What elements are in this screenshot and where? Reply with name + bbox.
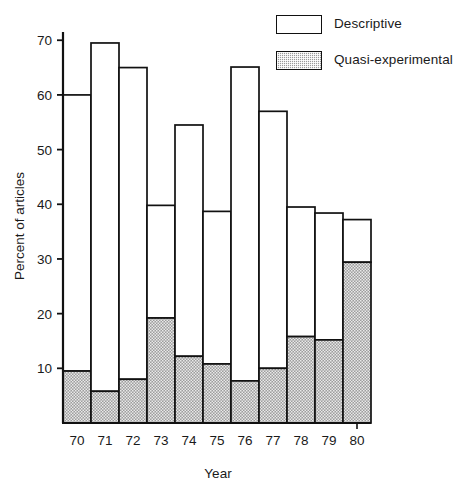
- x-tick-label: 79: [321, 433, 336, 448]
- bar-segment-descriptive: [259, 111, 287, 368]
- bar-segment-descriptive: [175, 125, 203, 356]
- bar-segment-descriptive: [315, 213, 343, 340]
- legend-item-quasi-experimental: Quasi-experimental: [276, 50, 436, 70]
- bar-group: [343, 220, 371, 423]
- x-tick-label: 73: [153, 433, 168, 448]
- bar-segment-descriptive: [287, 207, 315, 337]
- x-tick-label: 80: [349, 433, 364, 448]
- legend-item-descriptive: Descriptive: [276, 14, 436, 34]
- legend-label-descriptive: Descriptive: [334, 17, 402, 31]
- bar-group: [315, 213, 343, 423]
- bar-segment-descriptive: [203, 211, 231, 364]
- bar-segment-quasi-experimental: [91, 391, 119, 423]
- legend-label-quasi-experimental: Quasi-experimental: [334, 53, 453, 67]
- bar-group: [287, 207, 315, 423]
- bar-segment-descriptive: [91, 43, 119, 391]
- bar-segment-quasi-experimental: [231, 381, 259, 423]
- x-axis-title: Year: [204, 466, 232, 481]
- y-tick-label: 40: [37, 197, 52, 212]
- y-tick-label: 30: [37, 252, 52, 267]
- y-tick-label: 50: [37, 143, 52, 158]
- bar-segment-descriptive: [119, 68, 147, 380]
- bar-group: [147, 205, 175, 423]
- bar-segment-quasi-experimental: [343, 262, 371, 423]
- bar-segment-quasi-experimental: [119, 379, 147, 423]
- y-tick-label: 20: [37, 307, 52, 322]
- bar-group: [63, 95, 91, 423]
- bar-segment-quasi-experimental: [63, 371, 91, 423]
- x-tick-label: 74: [181, 433, 197, 448]
- y-tick-labels: 10203040506070: [37, 33, 52, 376]
- bar-segment-quasi-experimental: [287, 337, 315, 423]
- y-tick-label: 70: [37, 33, 52, 48]
- y-tick-label: 10: [37, 361, 52, 376]
- x-tick-label: 76: [237, 433, 252, 448]
- bars-layer: [63, 43, 371, 423]
- bar-segment-descriptive: [343, 220, 371, 263]
- bar-group: [119, 68, 147, 423]
- x-tick-label: 72: [125, 433, 140, 448]
- bar-group: [91, 43, 119, 423]
- bar-group: [231, 67, 259, 423]
- bar-group: [259, 111, 287, 423]
- y-tick-label: 60: [37, 88, 52, 103]
- x-tick-label: 70: [69, 433, 84, 448]
- x-tick-label: 75: [209, 433, 224, 448]
- bar-segment-descriptive: [147, 205, 175, 318]
- open-box-icon: [276, 15, 322, 34]
- bar-group: [175, 125, 203, 423]
- x-tick-label: 71: [97, 433, 112, 448]
- bar-segment-descriptive: [63, 95, 91, 371]
- bar-segment-quasi-experimental: [203, 364, 231, 423]
- bar-segment-quasi-experimental: [315, 340, 343, 423]
- chart-legend: Descriptive Quasi-experimental: [276, 14, 436, 86]
- bar-group: [203, 211, 231, 423]
- stippled-box-icon: [276, 51, 322, 70]
- x-tick-labels: 7071727374757677787980: [69, 433, 364, 448]
- bar-segment-quasi-experimental: [259, 368, 287, 423]
- x-tick-label: 77: [265, 433, 280, 448]
- y-axis-title: Percent of articles: [12, 172, 27, 280]
- bar-segment-descriptive: [231, 67, 259, 381]
- bar-segment-quasi-experimental: [175, 356, 203, 423]
- x-tick-label: 78: [293, 433, 308, 448]
- bar-segment-quasi-experimental: [147, 318, 175, 423]
